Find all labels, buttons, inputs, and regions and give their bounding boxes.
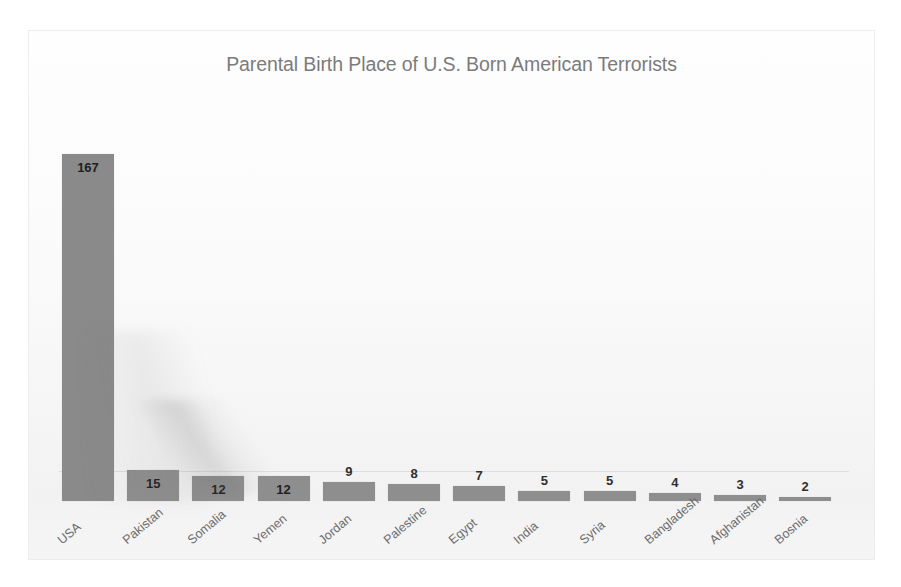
- plot-area: 16715121298755432 USAPakistanSomaliaYeme…: [29, 31, 876, 561]
- chart-frame: Parental Birth Place of U.S. Born Americ…: [28, 30, 875, 560]
- chart-page: Parental Birth Place of U.S. Born Americ…: [0, 0, 901, 587]
- bar-usa[interactable]: 167: [62, 154, 114, 501]
- bar-value-label: 167: [62, 160, 114, 175]
